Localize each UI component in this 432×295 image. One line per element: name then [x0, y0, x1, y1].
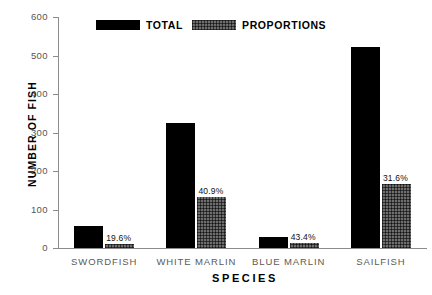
legend-item-proportions: PROPORTIONS: [192, 19, 326, 31]
legend-label-proportions: PROPORTIONS: [242, 19, 326, 31]
bar-chart: NUMBER OF FISH 0100200300400500600 19.6%…: [0, 0, 432, 295]
bar-total: [166, 123, 195, 248]
bar-total: [74, 226, 103, 248]
bar-percentage-label: 31.6%: [383, 173, 408, 183]
bar-percentage-label: 43.4%: [291, 232, 316, 242]
chart-legend: TOTAL PROPORTIONS: [96, 19, 326, 31]
legend-item-total: TOTAL: [96, 19, 183, 31]
legend-swatch-proportions-icon: [192, 20, 236, 30]
legend-label-total: TOTAL: [146, 19, 183, 31]
bar-percentage-label: 40.9%: [198, 186, 223, 196]
x-axis-category-label: SAILFISH: [335, 256, 427, 267]
bar-percentage-label: 19.6%: [106, 233, 131, 243]
bar-proportions: [197, 197, 226, 248]
legend-swatch-total-icon: [96, 20, 140, 30]
bar-proportions: [382, 184, 411, 248]
bar-proportions: [105, 244, 134, 248]
bar-proportions: [290, 243, 319, 248]
bar-total: [351, 47, 380, 248]
bars-layer: 19.6%40.9%43.4%31.6%: [0, 0, 432, 295]
x-axis-title: SPECIES: [58, 272, 432, 284]
bar-total: [259, 237, 288, 248]
x-axis-category-label: BLUE MARLIN: [243, 256, 335, 267]
x-axis-category-label: WHITE MARLIN: [150, 256, 242, 267]
x-axis-category-label: SWORDFISH: [58, 256, 150, 267]
